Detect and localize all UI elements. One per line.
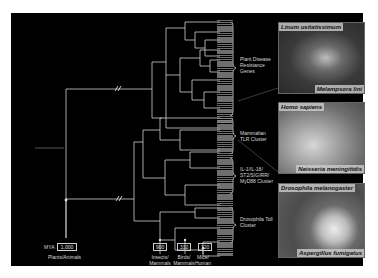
caption-drosophila: Drosophila melanogaster — [279, 184, 355, 192]
caption-melampsora: Melampsora lini — [315, 85, 364, 93]
node-caption-birds-mammals: Birds/ Mammals — [172, 254, 196, 266]
caption-homo: Homo sapiens — [279, 103, 324, 111]
cluster-label-plant: Plant Disease Resistance Genes — [240, 56, 276, 74]
caption-neisseria: Neisseria meningitidis — [296, 165, 364, 173]
photo-drosophila-aspergillus: Drosophila melanogaster Aspergillus fumi… — [278, 183, 365, 258]
node-caption-insects-mammals: Insects/ Mammals — [148, 254, 172, 266]
caption-linum: Linum usitatissimum — [279, 23, 343, 31]
cluster-label-tlr: Mammalian TLR Cluster — [240, 130, 276, 142]
leaf-labels-plant — [217, 20, 233, 123]
node-caption-plants-animals: Plants/Animals — [48, 254, 81, 260]
node-age-plants-animals: 1,000 — [57, 243, 77, 251]
axis-label-mya: MYA — [44, 244, 54, 250]
caption-aspergillus: Aspergillus fumigatus — [297, 249, 364, 257]
node-caption-mice-human: Mice/ Human — [194, 254, 212, 266]
node-age-insects-mammals: 900 — [153, 243, 167, 251]
node-age-mice-human: 120 — [198, 243, 212, 251]
node-age-birds-mammals: 310 — [177, 243, 191, 251]
leaf-labels-animal — [217, 118, 233, 256]
cluster-label-il1: IL-1/IL-18/ ST2/SIGIRR/ MyD88 Cluster — [240, 166, 276, 184]
photo-flax-rust: Linum usitatissimum Melampsora lini — [278, 22, 365, 94]
cluster-label-toll: Drosophila Toll Cluster — [240, 216, 276, 228]
photo-human-neisseria: Homo sapiens Neisseria meningitidis — [278, 102, 365, 174]
